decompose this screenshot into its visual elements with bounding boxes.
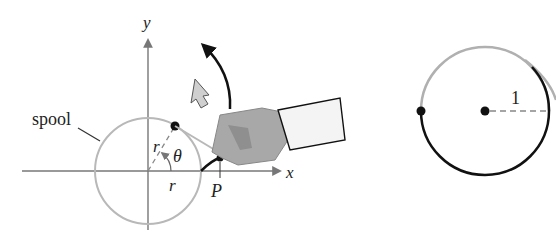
- left-figure: x y spool P θ r r: [22, 13, 345, 230]
- rotation-arrow: [203, 45, 230, 109]
- y-axis-label: y: [141, 13, 151, 32]
- start-point-dot: [417, 107, 426, 116]
- angle-theta-label: θ: [173, 146, 182, 166]
- spool-leader-line: [78, 128, 100, 141]
- radius-label-horizontal: r: [169, 176, 176, 195]
- right-figure: 1: [417, 47, 556, 175]
- angle-arc: [162, 153, 171, 171]
- radius-label-slanted: r: [153, 137, 160, 156]
- involute-diagram: x y spool P θ r r: [0, 0, 556, 242]
- wound-arc: [421, 67, 549, 175]
- point-p-label: P: [210, 181, 222, 201]
- unit-radius-label: 1: [511, 88, 520, 108]
- spool-label: spool: [32, 109, 71, 129]
- direction-block-arrow-icon: [191, 79, 209, 108]
- hand-illustration: [212, 98, 345, 165]
- center-dot: [481, 107, 490, 116]
- unwound-arc: [421, 47, 549, 111]
- x-axis-label: x: [285, 163, 294, 182]
